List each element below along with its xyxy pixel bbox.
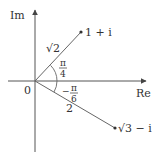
complex-plane-diagram: Im Re 0 1 + i √3 − i √2 2 π 4 − π 6 — [0, 0, 158, 159]
imaginary-axis-label: Im — [10, 9, 25, 22]
point-label-1-plus-i: 1 + i — [85, 26, 112, 39]
angle-numerator: π — [71, 83, 77, 93]
angle-label-pi-over-4: π 4 — [59, 58, 67, 79]
angle-label-minus-pi-over-6: − π 6 — [62, 83, 78, 104]
angle-arc-minus-pi-over-6 — [54, 81, 57, 92]
angle-sign: − — [62, 86, 70, 96]
angle-denominator: 6 — [71, 94, 77, 104]
point-label-sqrt3-minus-i: √3 − i — [118, 122, 152, 135]
modulus-label-sqrt2: √2 — [46, 42, 60, 55]
real-axis-label: Re — [136, 87, 151, 100]
angle-arc-pi-over-4 — [51, 65, 57, 81]
origin-label: 0 — [24, 84, 31, 97]
angle-numerator: π — [60, 58, 66, 68]
point-1-plus-i — [79, 30, 82, 33]
point-sqrt3-minus-i — [113, 126, 116, 129]
vector-1-plus-i — [35, 32, 81, 81]
angle-denominator: 4 — [60, 69, 66, 79]
